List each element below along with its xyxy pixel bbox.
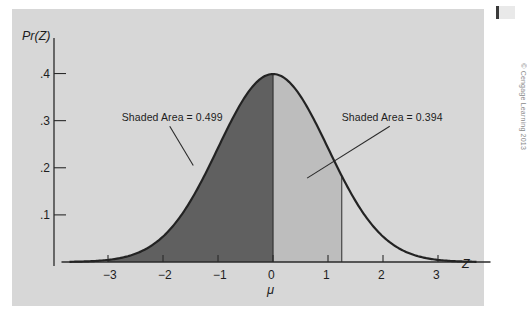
x-axis-variable-label: Z (462, 258, 470, 271)
x-axis-title: μ (267, 283, 274, 296)
x-tick-label: 3 (433, 269, 440, 281)
page-corner-mark (496, 6, 515, 19)
y-tick-label: .4 (40, 68, 50, 80)
y-tick-label: .1 (40, 209, 50, 221)
annotation-leader-line-left (170, 126, 194, 165)
y-tick-label: .3 (40, 115, 50, 127)
shaded-area-annotation: Shaded Area = 0.394 (342, 112, 443, 123)
x-tick-label: 2 (378, 269, 385, 281)
y-axis-title: Pr(Z) (22, 30, 50, 43)
copyright-credit: © Cengage Learning 2013 (520, 63, 527, 150)
x-tick-label: −2 (158, 269, 172, 281)
shaded-area-right (273, 74, 342, 262)
x-tick-label: −1 (213, 269, 227, 281)
y-tick-label: .2 (40, 162, 50, 174)
x-tick-label: 1 (323, 269, 330, 281)
shaded-area-annotation: Shaded Area = 0.499 (122, 112, 223, 123)
x-tick-label: −3 (103, 269, 117, 281)
shaded-area-left (108, 74, 273, 262)
y-axis-ticks (54, 74, 66, 215)
x-tick-label: 0 (268, 269, 275, 281)
